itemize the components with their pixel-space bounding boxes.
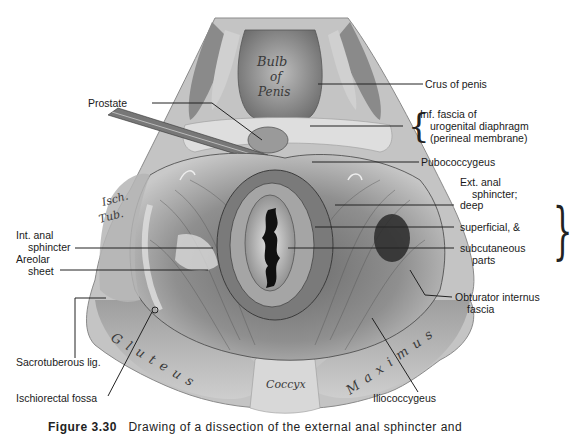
label-crus-of-penis: Crus of penis — [425, 78, 487, 90]
label-deep: deep — [460, 199, 483, 211]
label-superficial: superficial, & — [460, 221, 520, 233]
brace-ext-anal-parts: } — [553, 200, 573, 262]
label-obturator-internus-fascia: Obturator internus fascia — [455, 291, 540, 315]
label-int-anal-sphincter: Int. anal sphincter — [16, 229, 71, 253]
label-subcutaneous-parts: subcutaneous parts — [460, 242, 525, 266]
label-areolar-sheet: Areolar sheet — [16, 253, 54, 277]
label-iliococcygeus: Iliococcygeus — [373, 392, 436, 404]
label-ext-anal-sphincter: Ext. anal sphincter; — [460, 176, 518, 200]
caption-text: Drawing of a dissection of the external … — [128, 420, 462, 434]
caption-number: Figure 3.30 — [48, 420, 117, 434]
label-ischiorectal-fossa: Ischiorectal fossa — [16, 392, 97, 404]
label-pubococcygeus: Pubococcygeus — [421, 156, 495, 168]
label-inf-fascia: Inf. fascia of urogenital diaphragm (per… — [420, 108, 529, 144]
label-sacrotuberous-lig: Sacrotuberous lig. — [16, 356, 101, 368]
bulb-label: Bulb — [256, 54, 287, 69]
svg-text:Penis: Penis — [257, 85, 290, 99]
figure-caption: Figure 3.30 Drawing of a dissection of t… — [48, 420, 462, 434]
label-prostate: Prostate — [88, 97, 127, 109]
svg-text:Coccyx: Coccyx — [266, 378, 307, 391]
